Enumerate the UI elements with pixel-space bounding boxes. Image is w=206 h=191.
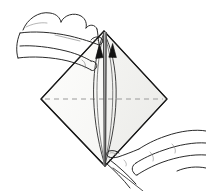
origami-diagram-figure: Origami fold step: preliminary base squa…	[0, 0, 206, 191]
origami-diagram-canvas	[0, 0, 206, 191]
